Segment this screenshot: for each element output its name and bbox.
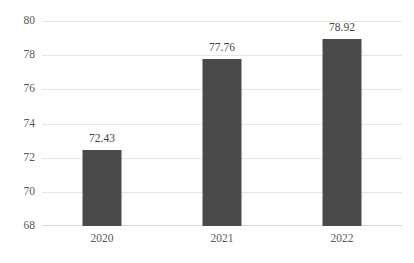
y-axis-tick-label: 76 — [1, 83, 35, 95]
bar-value-label: 72.43 — [89, 133, 115, 145]
y-axis-tick-label: 72 — [1, 152, 35, 164]
bar-value-label: 77.76 — [209, 42, 235, 54]
y-axis-tick-label: 78 — [1, 49, 35, 61]
x-axis-tick-label: 2022 — [331, 233, 354, 245]
bar-value-label: 78.92 — [329, 22, 355, 34]
bar-slot-2021: 77.76 — [162, 21, 282, 226]
bar-slot-2022: 78.92 — [282, 21, 402, 226]
bar-chart: 80 78 76 74 72 70 68 72.43 77.76 78.92 2… — [0, 0, 414, 263]
y-axis-tick-label: 68 — [1, 220, 35, 232]
plot-area: 72.43 77.76 78.92 — [42, 21, 402, 226]
x-axis-tick-label: 2020 — [91, 233, 114, 245]
y-axis-tick-label: 70 — [1, 186, 35, 198]
bar-2020 — [83, 150, 122, 226]
bar-slot-2020: 72.43 — [42, 21, 162, 226]
bar-2022 — [323, 39, 362, 226]
y-axis-tick-label: 80 — [1, 15, 35, 27]
x-axis-tick-label: 2021 — [211, 233, 234, 245]
y-axis-tick-label: 74 — [1, 118, 35, 130]
bar-2021 — [203, 59, 242, 226]
